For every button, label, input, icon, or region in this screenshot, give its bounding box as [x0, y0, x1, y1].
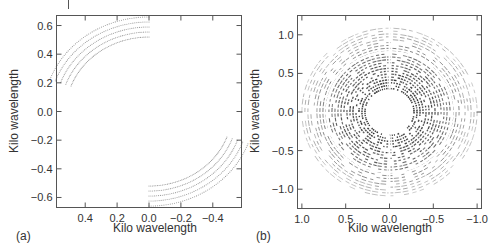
uv-track-segment: [339, 68, 341, 70]
uv-point: [68, 50, 69, 51]
uv-point: [108, 35, 109, 36]
uv-track-segment: [378, 169, 381, 170]
uv-point: [124, 40, 125, 41]
uv-track-segment: [403, 56, 407, 57]
uv-track-segment: [369, 130, 370, 131]
uv-track-segment: [365, 94, 366, 95]
uv-track-segment: [404, 140, 405, 141]
uv-track-segment: [418, 120, 419, 122]
uv-point: [186, 194, 187, 195]
uv-track-segment: [377, 58, 381, 59]
uv-track-segment: [420, 160, 423, 162]
uv-track-segment: [341, 136, 343, 139]
uv-track-segment: [374, 150, 376, 151]
uv-point: [226, 167, 227, 168]
uv-track-segment: [456, 130, 457, 133]
uv-point: [139, 27, 140, 28]
uv-point: [130, 23, 131, 24]
uv-track-segment: [362, 147, 364, 148]
uv-track-segment: [449, 102, 450, 106]
uv-track-segment: [403, 134, 405, 135]
uv-point: [85, 55, 86, 56]
uv-track-segment: [419, 143, 421, 145]
uv-point: [93, 43, 94, 44]
uv-point: [199, 182, 200, 183]
uv-point: [131, 28, 132, 29]
uv-track-segment: [317, 66, 320, 71]
uv-track-segment: [417, 64, 421, 66]
uv-point: [144, 21, 145, 22]
uv-point: [207, 190, 208, 191]
uv-track-segment: [339, 47, 344, 51]
uv-track-segment: [378, 148, 381, 149]
uv-track-segment: [410, 184, 414, 185]
uv-point: [195, 190, 196, 191]
uv-track-segment: [424, 35, 429, 37]
uv-track-segment: [451, 61, 455, 65]
uv-track-segment: [398, 78, 400, 79]
uv-track-segment: [430, 123, 431, 125]
uv-track-segment: [405, 94, 406, 95]
uv-point: [61, 58, 62, 59]
uv-track-segment: [449, 78, 450, 80]
uv-point: [230, 141, 231, 142]
uv-point: [193, 174, 194, 175]
uv-point: [234, 165, 235, 166]
uv-point: [213, 158, 214, 159]
uv-track-segment: [347, 94, 348, 96]
uv-track-segment: [437, 154, 440, 157]
uv-point: [148, 26, 149, 27]
uv-point: [131, 33, 132, 34]
uv-track-segment: [353, 57, 356, 59]
uv-point: [122, 40, 123, 41]
uv-track-segment: [345, 102, 346, 105]
uv-point: [180, 196, 181, 197]
panel-b-data-points: [302, 16, 477, 209]
uv-point: [55, 68, 56, 69]
uv-point: [211, 174, 212, 175]
uv-point: [226, 148, 227, 149]
uv-track-segment: [363, 154, 365, 155]
uv-track-segment: [418, 137, 419, 138]
uv-track-segment: [349, 124, 350, 126]
uv-track-segment: [362, 98, 363, 99]
uv-track-segment: [425, 76, 428, 79]
uv-point: [105, 30, 106, 31]
y-tick-label: 0.4: [37, 48, 52, 60]
uv-point: [92, 31, 93, 32]
uv-track-segment: [421, 176, 425, 178]
uv-point: [164, 194, 165, 195]
uv-track-segment: [429, 85, 431, 87]
uv-track-segment: [339, 100, 340, 103]
uv-track-segment: [372, 128, 373, 129]
uv-track-segment: [403, 92, 404, 93]
uv-track-segment: [378, 91, 379, 92]
uv-track-segment: [400, 168, 403, 169]
uv-point: [83, 37, 84, 38]
uv-point: [115, 37, 116, 38]
uv-point: [125, 39, 126, 40]
uv-track-segment: [338, 91, 339, 94]
uv-track-segment: [351, 141, 352, 143]
uv-point: [202, 180, 203, 181]
uv-track-segment: [308, 100, 309, 105]
uv-point: [141, 27, 142, 28]
uv-point: [231, 140, 232, 141]
uv-point: [129, 33, 130, 34]
uv-point: [131, 18, 132, 19]
uv-track-segment: [326, 169, 329, 172]
uv-track-segment: [364, 74, 366, 75]
uv-track-segment: [344, 129, 345, 132]
uv-track-segment: [448, 146, 450, 149]
uv-point: [222, 146, 223, 147]
uv-track-segment: [398, 134, 400, 135]
uv-track-segment: [469, 84, 470, 87]
uv-track-segment: [435, 74, 437, 76]
uv-track-segment: [348, 102, 349, 105]
uv-track-segment: [428, 94, 429, 96]
uv-point: [80, 60, 81, 61]
uv-track-segment: [334, 95, 335, 98]
uv-point: [111, 44, 112, 45]
uv-point: [198, 183, 199, 184]
uv-point: [190, 198, 191, 199]
